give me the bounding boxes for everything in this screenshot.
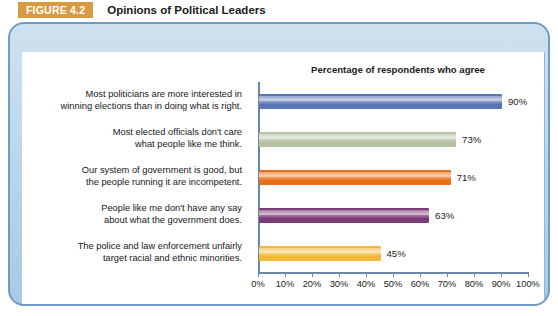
x-axis-tick	[447, 272, 448, 277]
x-axis-tick-label: 0%	[251, 279, 264, 289]
bar-category-label: Most politicians are more interested in …	[22, 89, 250, 112]
x-axis-tick-labels: 0%10%20%30%40%50%60%70%80%90%100%	[258, 279, 528, 293]
bar-row: Most politicians are more interested in …	[22, 82, 545, 120]
x-axis-tick	[366, 272, 367, 277]
x-axis-tick-label: 80%	[465, 279, 484, 289]
x-axis-tick-label: 30%	[330, 279, 349, 289]
figure-title: Opinions of Political Leaders	[107, 4, 265, 16]
bar-value-label: 71%	[457, 172, 476, 183]
bar-category-label: Most elected officials don't care what p…	[22, 127, 250, 150]
bar	[259, 208, 429, 223]
bar	[259, 170, 451, 185]
bar-row: People like me don't have any say about …	[22, 196, 545, 234]
bar-track: 71%	[259, 158, 545, 196]
x-axis-tick	[528, 272, 529, 277]
figure-panel: Percentage of respondents who agree Most…	[8, 22, 550, 306]
bar-track: 63%	[259, 196, 545, 234]
x-axis-tick-label: 50%	[384, 279, 403, 289]
bar-row: Our system of government is good, but th…	[22, 158, 545, 196]
x-axis-tick-label: 60%	[411, 279, 430, 289]
bar-track: 73%	[259, 120, 545, 158]
x-axis-tick-label: 10%	[276, 279, 295, 289]
x-axis-tick	[285, 272, 286, 277]
chart-plot-area: Most politicians are more interested in …	[22, 82, 545, 272]
x-axis-tick-label: 40%	[357, 279, 376, 289]
bar	[259, 132, 456, 147]
bar-category-label: Our system of government is good, but th…	[22, 165, 250, 188]
bar-value-label: 45%	[387, 248, 406, 259]
x-axis-tick	[312, 272, 313, 277]
bar-track: 45%	[259, 234, 545, 272]
x-axis-tick-label: 20%	[303, 279, 322, 289]
bar-row: The police and law enforcement unfairly …	[22, 234, 545, 272]
x-axis-tick-label: 100%	[516, 279, 540, 289]
figure-number-badge: FIGURE 4.2	[18, 2, 93, 19]
x-axis-tick	[420, 272, 421, 277]
x-axis-tick	[258, 272, 259, 277]
bar	[259, 94, 502, 109]
chart-title: Percentage of respondents who agree	[258, 64, 538, 75]
bar-value-label: 63%	[435, 210, 454, 221]
bar-value-label: 90%	[508, 96, 527, 107]
x-axis-tick	[393, 272, 394, 277]
bar-category-label: People like me don't have any say about …	[22, 203, 250, 226]
chart-plot-card: Percentage of respondents who agree Most…	[22, 52, 545, 304]
bar-row: Most elected officials don't care what p…	[22, 120, 545, 158]
bar	[259, 246, 381, 261]
x-axis-tick-label: 90%	[492, 279, 511, 289]
bar-value-label: 73%	[462, 134, 481, 145]
bar-track: 90%	[259, 82, 545, 120]
figure-header: FIGURE 4.2 Opinions of Political Leaders	[0, 0, 558, 20]
x-axis-tick	[474, 272, 475, 277]
x-axis-tick-label: 70%	[438, 279, 457, 289]
x-axis-tick	[339, 272, 340, 277]
bar-category-label: The police and law enforcement unfairly …	[22, 241, 250, 264]
x-axis-tick	[501, 272, 502, 277]
